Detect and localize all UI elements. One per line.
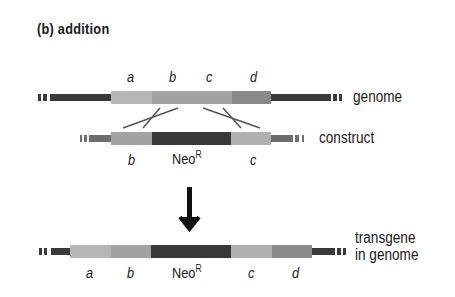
construct-seg-b [111, 132, 152, 145]
transgene-dash [343, 248, 346, 255]
construct-label-neo: NeoR [172, 149, 202, 167]
transgene-label-b: b [127, 264, 134, 281]
transgene-label-a: a [86, 264, 93, 281]
transgene-seg-neo [151, 245, 231, 258]
transgene-seg-c [231, 245, 272, 258]
construct-flank-left [89, 135, 111, 142]
transgene-label: transgene in genome [355, 229, 419, 263]
construct-flank-right [271, 135, 293, 142]
neo-superscript: R [195, 149, 201, 160]
arrow-down-icon [180, 187, 199, 231]
construct-dash [80, 135, 82, 142]
transgene-seg-b [111, 245, 151, 258]
construct-dash [84, 135, 87, 142]
transgene-dash [39, 248, 42, 255]
construct-label-c: c [250, 151, 256, 168]
construct-seg-neo [152, 132, 231, 145]
construct-label: construct [319, 129, 374, 146]
transgene-flank-right [312, 248, 335, 255]
construct-dash [295, 135, 299, 142]
transgene-label-c: c [248, 264, 254, 281]
construct-dash [302, 135, 304, 142]
neo-text: Neo [172, 150, 195, 167]
construct-seg-c [231, 132, 271, 145]
transgene-seg-d [272, 245, 312, 258]
transgene-label-line1: transgene [355, 229, 419, 246]
construct-label-b: b [128, 151, 135, 168]
transgene-label-neo: NeoR [172, 263, 202, 281]
transgene-flank-left [51, 248, 70, 255]
transgene-label-line2: in genome [355, 246, 419, 263]
neo-superscript: R [195, 263, 201, 274]
neo-text: Neo [172, 264, 195, 281]
transgene-dash [337, 248, 341, 255]
transgene-dash [44, 248, 47, 255]
transgene-label-d: d [292, 264, 299, 281]
transgene-seg-a [70, 245, 111, 258]
